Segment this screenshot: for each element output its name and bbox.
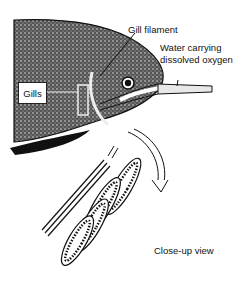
- water-label-line2: dissolved oxygen: [160, 54, 233, 65]
- gill-closeup: [42, 146, 147, 269]
- gill-filament-label: Gill filament: [128, 24, 178, 35]
- closeup-label: Close-up view: [154, 245, 214, 256]
- gills-label: Gills: [18, 82, 47, 104]
- water-label-line1: Water carrying: [160, 42, 221, 53]
